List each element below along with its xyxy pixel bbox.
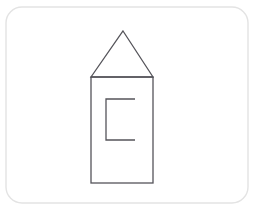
roof-triangle [91, 31, 153, 77]
inner-bracket [106, 99, 135, 140]
drawing-canvas [0, 0, 255, 215]
body-rectangle [91, 77, 153, 183]
figure-svg [0, 0, 255, 215]
